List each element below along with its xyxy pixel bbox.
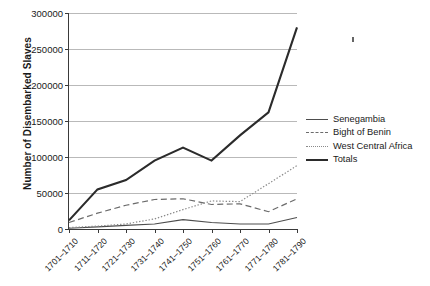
y-tick-label: 0 <box>58 224 63 235</box>
chart-legend: SenegambiaBight of BeninWest Central Afr… <box>306 112 412 166</box>
legend-label: Senegambia <box>333 114 385 124</box>
legend-item-totals[interactable]: Totals <box>306 153 412 167</box>
y-tick-label: 50000 <box>37 188 63 199</box>
series-line-totals <box>69 27 297 220</box>
series-line-west-central-africa <box>69 166 297 228</box>
legend-label: Bight of Benin <box>333 127 391 137</box>
y-tick-label: 250000 <box>31 44 63 55</box>
legend-item-west-central-africa[interactable]: West Central Africa <box>306 139 412 153</box>
plot-area: 050000100000150000200000250000300000 170… <box>68 13 297 230</box>
legend-item-bight-of-benin[interactable]: Bight of Benin <box>306 126 412 140</box>
legend-item-senegambia[interactable]: Senegambia <box>306 112 412 126</box>
line-chart: Number of Disembarked Slaves 05000010000… <box>0 0 430 286</box>
legend-swatch-icon <box>306 115 328 123</box>
x-tick-mark <box>183 229 184 233</box>
x-tick-mark <box>269 229 270 233</box>
legend-swatch-icon <box>306 128 328 136</box>
y-tick-label: 300000 <box>31 8 63 19</box>
legend-swatch-icon <box>306 155 328 163</box>
y-tick-label: 200000 <box>31 80 63 91</box>
x-tick-mark <box>98 229 99 233</box>
x-tick-mark <box>155 229 156 233</box>
x-tick-mark <box>240 229 241 233</box>
artifact-speck <box>352 37 354 42</box>
legend-label: West Central Africa <box>333 141 412 151</box>
x-tick-mark <box>212 229 213 233</box>
x-tick-mark <box>297 229 298 233</box>
y-tick-label: 100000 <box>31 152 63 163</box>
x-tick-mark <box>126 229 127 233</box>
series-line-bight-of-benin <box>69 199 297 223</box>
y-tick-label: 150000 <box>31 116 63 127</box>
x-tick-mark <box>69 229 70 233</box>
series-line-senegambia <box>69 217 297 228</box>
series-layer <box>69 13 297 229</box>
legend-label: Totals <box>333 154 357 164</box>
legend-swatch-icon <box>306 142 328 150</box>
